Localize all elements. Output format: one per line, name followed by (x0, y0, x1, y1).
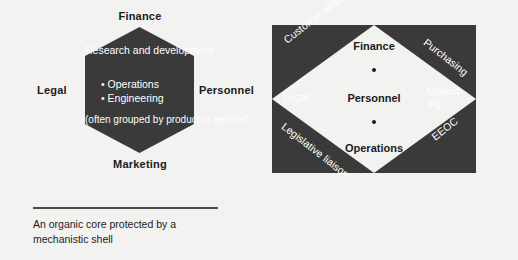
left-diagram-panel: Finance Legal Personnel Marketing Resear… (0, 0, 259, 260)
right-core-label-operations: Operations (329, 142, 419, 154)
core-separator-dot-lower (372, 120, 376, 124)
left-label-legal: Legal (37, 84, 67, 97)
shell-label-marketing: Market-ing (427, 85, 463, 109)
left-caption-rule (33, 207, 218, 209)
left-label-personnel: Personnel (199, 84, 254, 97)
hexagon-heading: Research and development (85, 44, 194, 58)
left-label-finance: Finance (108, 10, 172, 23)
left-caption: An organic core protected by a mechanist… (33, 217, 233, 247)
right-core-label-finance: Finance (334, 40, 414, 52)
hexagon-note: (often grouped by product or service) (85, 114, 194, 127)
right-diagram-panel: Finance Personnel Operations Customer af… (259, 0, 518, 260)
right-core-label-personnel: Personnel (331, 92, 417, 104)
core-separator-dot-upper (372, 68, 376, 72)
shell-label-legal: Legal (283, 91, 309, 103)
figure-container: Finance Legal Personnel Marketing Resear… (0, 0, 518, 260)
hexagon-bullets: • Operations• Engineering (85, 78, 194, 105)
left-label-marketing: Marketing (105, 158, 175, 171)
